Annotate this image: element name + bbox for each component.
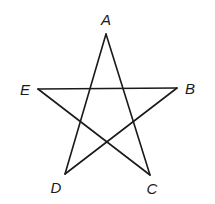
edge-a-d <box>65 34 106 174</box>
edge-e-c <box>38 89 150 175</box>
vertex-label-d: D <box>51 179 62 196</box>
edge-a-c <box>106 34 150 175</box>
vertex-label-c: C <box>147 180 158 197</box>
vertex-label-b: B <box>185 80 195 97</box>
vertex-label-e: E <box>20 81 31 98</box>
vertex-label-a: A <box>100 11 111 28</box>
edge-b-d <box>65 88 177 174</box>
pentagram-diagram: A B C D E <box>0 0 215 204</box>
edge-e-b <box>38 88 177 89</box>
